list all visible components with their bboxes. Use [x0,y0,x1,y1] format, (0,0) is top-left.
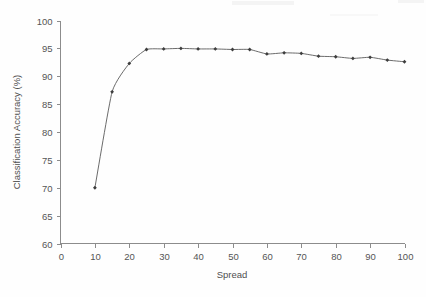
data-point-marker [334,55,338,59]
data-point-marker [403,60,407,64]
x-tick-label: 100 [398,251,414,262]
data-point-marker [196,47,200,51]
x-tick-label: 30 [159,251,170,262]
data-point-marker [282,51,286,55]
x-tick-label: 20 [124,251,135,262]
data-point-marker [317,54,321,58]
y-tick-label: 85 [42,99,53,110]
y-axis-tick-labels: 6065707580859095100 [37,16,53,250]
x-axis-tick-labels: 0102030405060708090100 [59,251,414,262]
y-tick-label: 70 [42,183,53,194]
y-tick-label: 95 [42,43,53,54]
data-point-marker [213,47,217,51]
data-point-marker [248,48,252,52]
data-point-marker [162,47,166,51]
data-series-markers [93,46,406,189]
x-tick-label: 70 [296,251,307,262]
line-chart: 6065707580859095100 01020304050607080901… [0,0,426,297]
y-tick-label: 100 [37,16,53,27]
y-tick-label: 80 [42,127,53,138]
x-axis-title: Spread [217,269,248,280]
data-point-marker [368,55,372,59]
x-tick-label: 90 [365,251,376,262]
x-tick-label: 40 [193,251,204,262]
y-tick-label: 75 [42,155,53,166]
data-series-line [95,48,405,187]
y-tick-label: 65 [42,211,53,222]
data-point-marker [93,186,97,190]
data-point-marker [265,52,269,56]
chart-figure: 6065707580859095100 01020304050607080901… [0,0,426,297]
data-point-marker [145,48,149,52]
x-axis-ticks [62,244,406,248]
data-point-marker [179,46,183,50]
data-point-marker [299,51,303,55]
x-tick-label: 80 [331,251,342,262]
data-point-marker [110,90,114,94]
data-point-marker [231,48,235,52]
y-axis-ticks [57,22,61,245]
y-axis-title: Classification Accuracy (%) [11,75,22,190]
data-point-marker [385,58,389,62]
data-point-marker [351,57,355,61]
x-tick-label: 50 [228,251,239,262]
x-tick-label: 0 [59,251,64,262]
y-tick-label: 60 [42,239,53,250]
y-tick-label: 90 [42,71,53,82]
x-tick-label: 10 [90,251,101,262]
x-tick-label: 60 [262,251,273,262]
